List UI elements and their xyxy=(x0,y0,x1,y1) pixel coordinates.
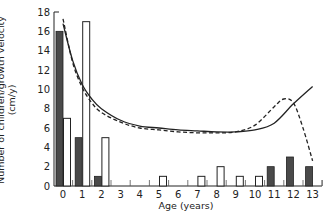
x-tick-label: 9 xyxy=(233,189,239,200)
y-tick-label: 2 xyxy=(44,161,50,172)
x-tick-label: 10 xyxy=(249,189,262,200)
y-tick-label: 18 xyxy=(37,7,50,18)
x-tick-label: 5 xyxy=(156,189,162,200)
x-tick-label: 0 xyxy=(60,189,66,200)
bar-open xyxy=(160,176,167,186)
x-tick-label: 3 xyxy=(117,189,123,200)
x-tick-label: 6 xyxy=(175,189,181,200)
x-tick-label: 1 xyxy=(79,189,85,200)
y-axis-label: Number of children/growth velocity (cm/y… xyxy=(0,16,17,184)
y-tick-label: 0 xyxy=(44,181,50,192)
x-tick-label: 11 xyxy=(268,189,281,200)
bar-filled xyxy=(286,157,293,186)
y-tick-label: 16 xyxy=(37,26,50,37)
bar-open xyxy=(217,167,224,186)
y-tick-label: 8 xyxy=(44,103,50,114)
y-tick-label: 10 xyxy=(37,84,50,95)
bar-open xyxy=(64,118,71,186)
bar-open xyxy=(256,176,263,186)
x-tick-label: 2 xyxy=(98,189,104,200)
curve-solid xyxy=(63,24,313,132)
bar-filled xyxy=(267,167,274,186)
curve-dashed xyxy=(63,19,313,161)
y-tick-label: 14 xyxy=(37,45,50,56)
bar-open xyxy=(83,22,90,186)
x-tick-label: 12 xyxy=(287,189,300,200)
y-axis-label-line2: (cm/y) xyxy=(6,16,17,184)
x-tick-label: 4 xyxy=(137,189,143,200)
x-tick-label: 13 xyxy=(306,189,319,200)
x-tick-label: 7 xyxy=(194,189,200,200)
x-axis-label: Age (years) xyxy=(0,200,332,211)
bar-open xyxy=(236,176,243,186)
bar-filled xyxy=(56,31,63,186)
y-tick-label: 12 xyxy=(37,65,50,76)
bar-filled xyxy=(75,138,82,186)
bar-filled xyxy=(306,167,313,186)
bar-open xyxy=(198,176,205,186)
x-tick-label: 8 xyxy=(213,189,219,200)
y-tick-label: 4 xyxy=(44,142,50,153)
y-tick-label: 6 xyxy=(44,123,50,134)
chart-canvas: 024681012141618012345678910111213 xyxy=(0,0,332,224)
bar-filled xyxy=(94,176,101,186)
bar-open xyxy=(102,138,109,186)
